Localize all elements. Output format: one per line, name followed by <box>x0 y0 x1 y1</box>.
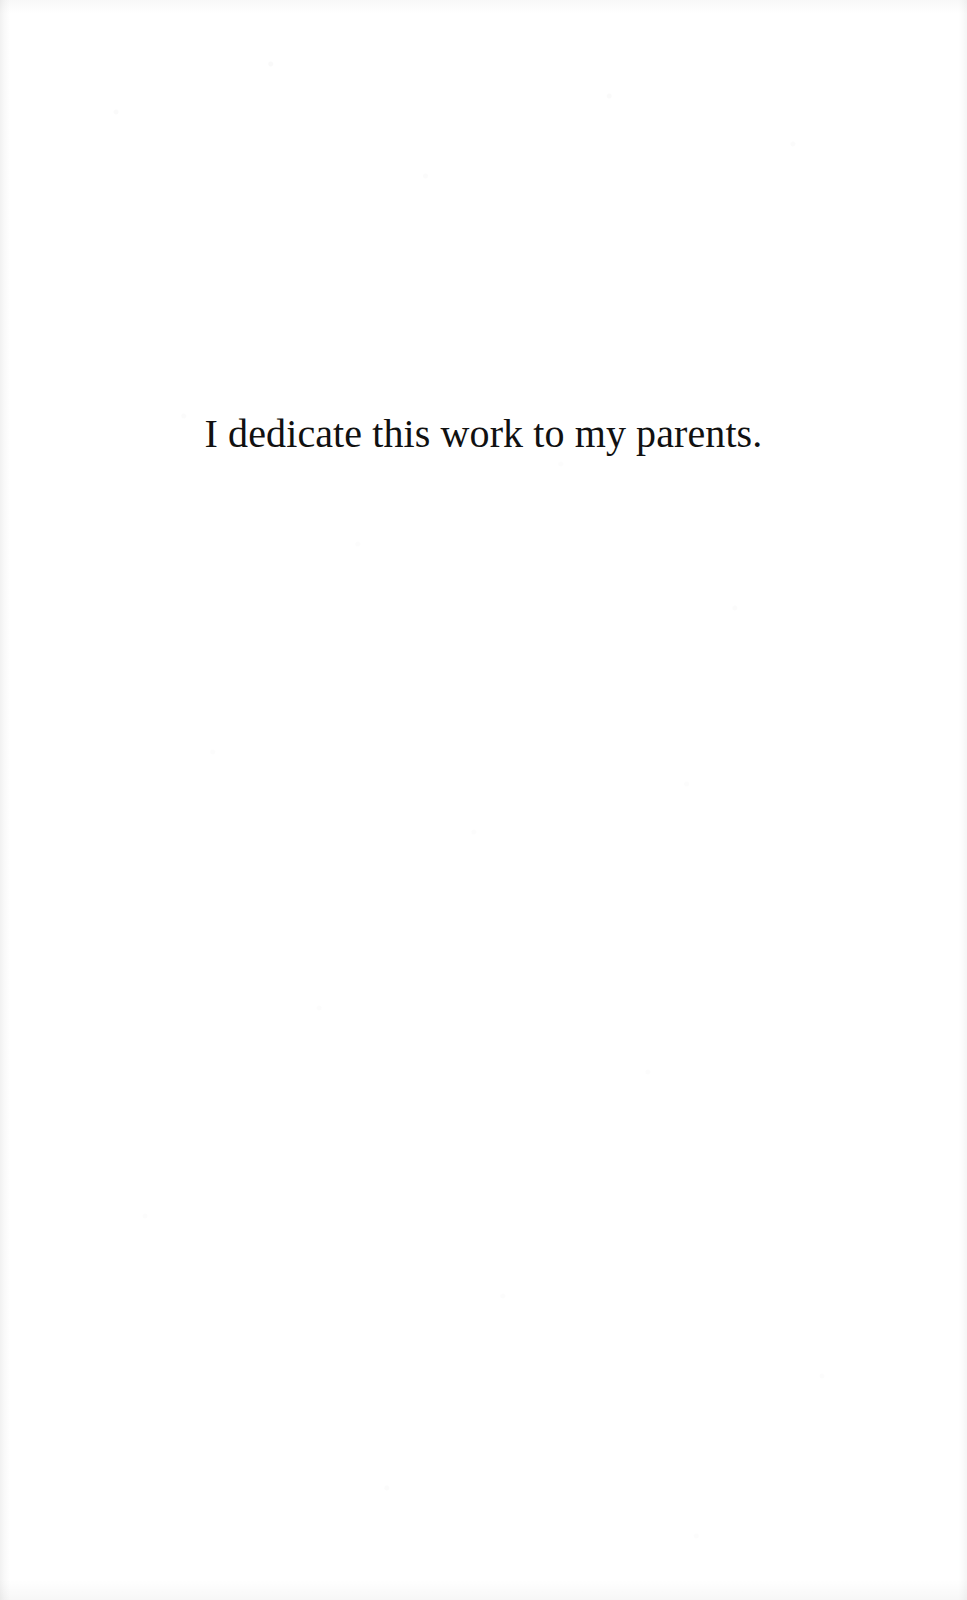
scan-texture-overlay <box>0 0 967 1600</box>
page-edge-bottom-shading <box>0 1580 967 1600</box>
page-edge-top-shading <box>0 0 967 14</box>
page-edge-left-shading <box>0 0 10 1600</box>
dedication-page: I dedicate this work to my parents. <box>0 0 967 1600</box>
page-edge-right-shading <box>958 0 967 1600</box>
dedication-text: I dedicate this work to my parents. <box>0 414 967 454</box>
